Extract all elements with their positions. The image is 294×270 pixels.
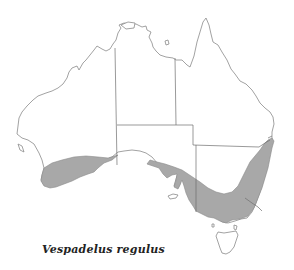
species-name-caption: Vespadelus regulus xyxy=(42,243,165,256)
kangaroo-island xyxy=(168,194,178,199)
flinders-island xyxy=(234,225,237,230)
shark-bay-islands xyxy=(18,144,24,152)
australia-distribution-map xyxy=(0,0,294,270)
groote-eylandt xyxy=(165,40,169,45)
king-island xyxy=(212,224,214,227)
tasmania xyxy=(216,231,238,254)
